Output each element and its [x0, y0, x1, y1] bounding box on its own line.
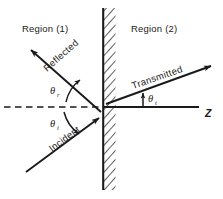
theta-t-subscript: t	[155, 99, 157, 106]
theta-i-label: θ i	[50, 118, 59, 131]
transmitted-ray-label: Transmitted	[130, 63, 184, 91]
reflected-ray	[31, 50, 101, 112]
region-2-label: Region (2)	[131, 23, 177, 34]
optics-reflection-refraction-figure: Region (1) Region (2) Reflected Incident…	[0, 0, 223, 199]
z-axis-label: Z	[204, 107, 212, 119]
theta-r-subscript: r	[57, 91, 60, 98]
figure-canvas: Region (1) Region (2) Reflected Incident…	[0, 0, 223, 199]
theta-t-symbol: θ	[148, 93, 153, 104]
theta-i-subscript: i	[57, 124, 59, 131]
region-1-label: Region (1)	[22, 23, 68, 34]
hatched-interface	[104, 8, 116, 190]
theta-i-symbol: θ	[50, 118, 55, 129]
theta-t-label: θ t	[148, 93, 157, 106]
theta-r-label: θ r	[50, 85, 60, 98]
theta-r-symbol: θ	[50, 85, 55, 96]
interface-boundary	[103, 8, 115, 190]
reflected-ray-label: Reflected	[41, 37, 80, 74]
